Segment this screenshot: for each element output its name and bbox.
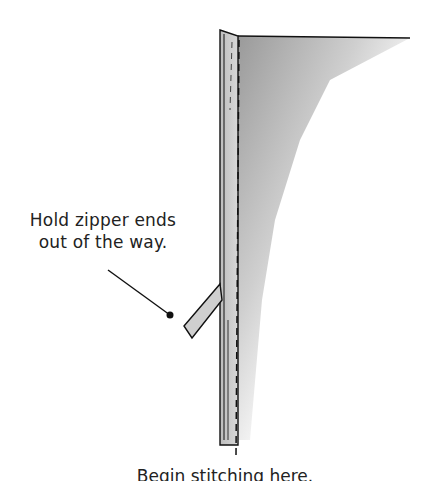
- leader-dot: [167, 312, 174, 319]
- caption: Begin stitching here.: [115, 462, 335, 481]
- callout-line-1: Hold zipper ends: [18, 209, 188, 231]
- callout-label: Hold zipper ends out of the way.: [18, 209, 188, 253]
- leader-line: [108, 270, 170, 315]
- fabric-panel: [238, 36, 410, 440]
- zipper-end-tab: [184, 284, 222, 338]
- callout-line-2: out of the way.: [18, 231, 188, 253]
- zipper-fold: [220, 30, 238, 445]
